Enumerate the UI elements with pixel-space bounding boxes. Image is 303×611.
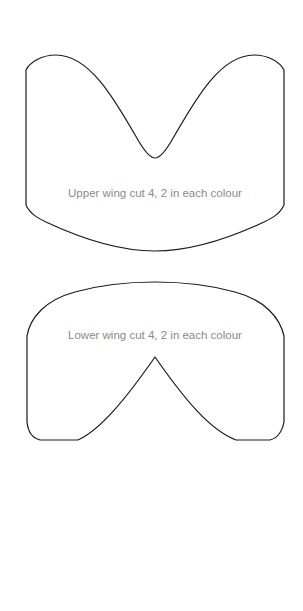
upper-wing-label: Upper wing cut 4, 2 in each colour — [68, 187, 242, 199]
wing-template: Upper wing cut 4, 2 in each colour Lower… — [0, 0, 303, 611]
upper-wing-piece: Upper wing cut 4, 2 in each colour — [26, 55, 284, 251]
lower-wing-piece: Lower wing cut 4, 2 in each colour — [27, 282, 284, 440]
lower-wing-outline — [27, 282, 284, 440]
upper-wing-outline — [26, 55, 284, 251]
lower-wing-label: Lower wing cut 4, 2 in each colour — [68, 329, 242, 341]
